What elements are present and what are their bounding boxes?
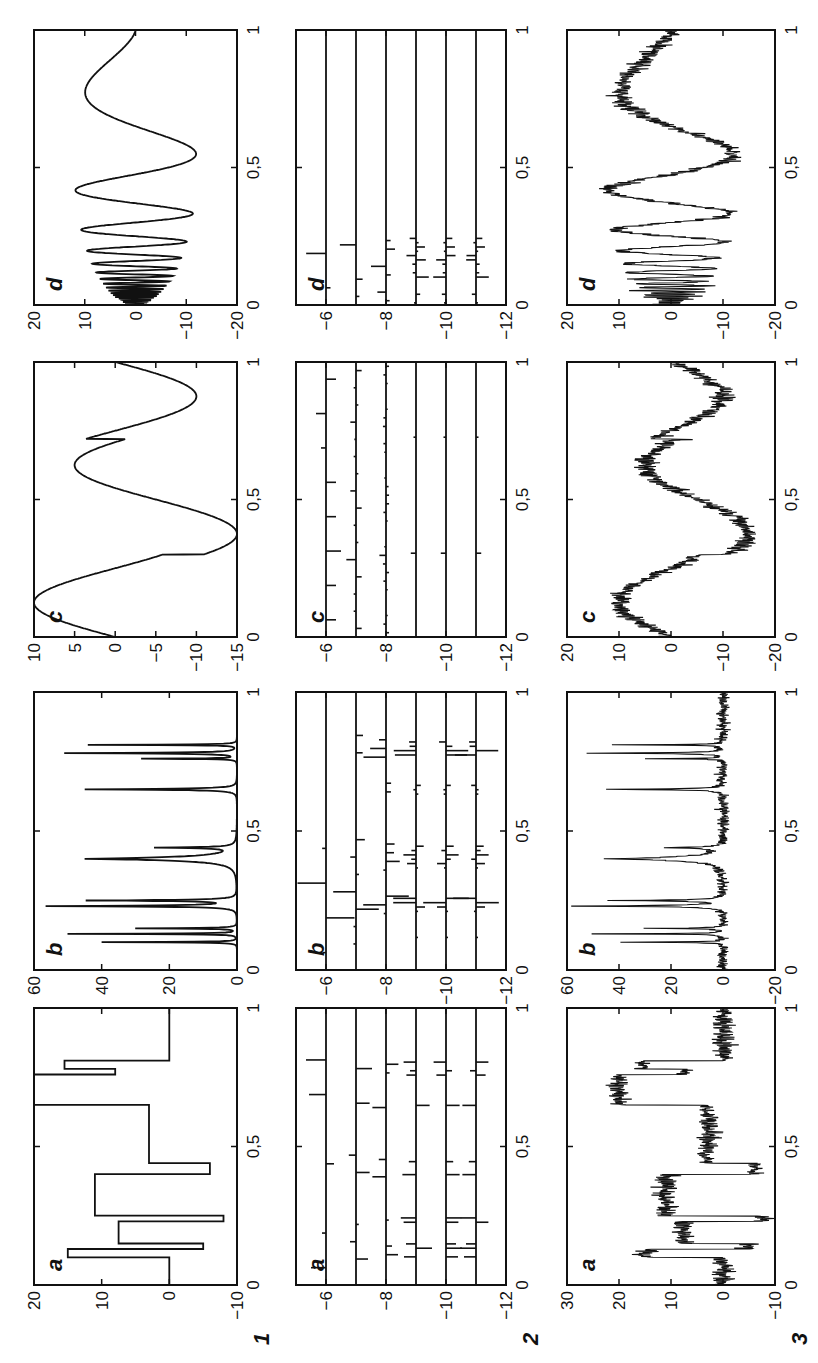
x-tick-label: 0 [244,300,263,309]
panel-letter: d [42,277,67,291]
x-tick-label: 0,5 [513,1135,532,1159]
y-tick-label: −12 [497,1291,516,1320]
y-tick-label: −10 [714,643,733,672]
x-tick-label: 1 [244,357,263,366]
y-tick-label: 0 [228,976,247,985]
figure: 00,5120100−10a00,516040200b00,511050−5−1… [0,0,818,1363]
y-tick-label: −12 [497,311,516,340]
figure-canvas: 00,5120100−10a00,516040200b00,511050−5−1… [0,0,818,1363]
y-tick-label: −10 [766,1291,785,1320]
x-tick-label: 0 [782,1280,801,1289]
x-tick-label: 0 [782,632,801,641]
signal-curve [610,362,756,637]
y-tick-label: −20 [766,976,785,1005]
x-tick-label: 0 [244,965,263,974]
x-tick-label: 0 [244,1280,263,1289]
x-tick-label: 1 [782,25,801,34]
y-tick-label: −20 [766,311,785,340]
x-tick-label: 0 [513,1280,532,1289]
plot-frame [567,30,775,305]
x-tick-label: 1 [244,687,263,696]
y-tick-label: −5 [147,643,166,662]
y-tick-label: −10 [437,311,456,340]
x-tick-label: 1 [244,25,263,34]
x-tick-label: 0,5 [513,156,532,180]
y-tick-label: 10 [610,311,629,330]
y-tick-label: 10 [610,643,629,662]
y-tick-label: 0 [106,643,125,652]
y-tick-label: 0 [662,643,681,652]
x-tick-label: 1 [244,1003,263,1012]
plot-frame [34,362,237,637]
signal-curve [34,1008,224,1285]
y-tick-label: −12 [497,976,516,1005]
y-tick-label: 20 [610,1291,629,1310]
y-tick-label: 10 [93,1291,112,1310]
plot-frame [296,692,506,970]
y-tick-label: −6 [317,976,336,995]
panel-3a: 00,513020100−10a [558,1003,801,1320]
plot-frame [34,30,237,305]
row-label: 2 [518,1332,543,1346]
signal-curve [571,692,731,970]
panel-letter: b [575,943,600,956]
y-tick-label: −20 [228,311,247,340]
signal-curve [46,692,237,970]
x-tick-label: 0,5 [513,488,532,512]
x-tick-label: 0 [513,965,532,974]
panel-2c: 00,51−6−8−10−12c [296,357,532,672]
x-tick-label: 0,5 [513,819,532,843]
y-tick-label: −10 [714,311,733,340]
y-tick-label: −8 [377,1291,396,1310]
y-tick-label: 40 [610,976,629,995]
x-tick-label: 1 [782,687,801,696]
panel-letter: c [575,611,600,623]
signal-curve [606,1008,775,1285]
y-tick-label: 60 [25,976,44,995]
y-tick-label: −10 [437,976,456,1005]
y-tick-label: −8 [377,643,396,662]
panel-3c: 00,5120100−10−20c [558,357,801,672]
panel-1b: 00,516040200b [25,687,263,995]
x-tick-label: 1 [513,357,532,366]
x-tick-label: 0,5 [244,156,263,180]
panel-1a: 00,5120100−10a [25,1003,263,1320]
panel-letter: a [575,1259,600,1271]
x-tick-label: 0 [244,632,263,641]
y-tick-label: 30 [558,1291,577,1310]
y-tick-label: −15 [228,643,247,672]
x-tick-label: 1 [513,25,532,34]
y-tick-label: −10 [437,1291,456,1320]
y-tick-label: −10 [228,1291,247,1320]
x-tick-label: 0,5 [782,488,801,512]
panel-letter: b [42,943,67,956]
panel-letter: d [575,277,600,291]
y-tick-label: 40 [93,976,112,995]
y-tick-label: 0 [160,1291,179,1300]
y-tick-label: 20 [25,311,44,330]
y-tick-label: 20 [25,1291,44,1310]
y-tick-label: 20 [160,976,179,995]
panel-3d: 00,5120100−10−20d [558,25,801,340]
y-tick-label: 10 [662,1291,681,1310]
y-tick-label: −6 [317,311,336,330]
signal-curve [599,30,741,305]
plot-frame [296,362,506,637]
y-tick-label: 0 [662,311,681,320]
row-label: 3 [787,1333,812,1345]
y-tick-label: −8 [377,311,396,330]
x-tick-label: 0,5 [244,819,263,843]
y-tick-label: −6 [317,1291,336,1310]
x-tick-label: 1 [782,357,801,366]
panel-2a: 00,51−6−8−10−12a [296,1003,532,1320]
x-tick-label: 0,5 [244,488,263,512]
panel-1d: 00,5120100−10−20d [25,25,263,340]
y-tick-label: −20 [766,643,785,672]
x-tick-label: 0 [782,300,801,309]
y-tick-label: −6 [317,643,336,662]
plot-frame [296,30,506,305]
y-tick-label: 10 [76,311,95,330]
y-tick-label: 10 [25,643,44,662]
y-tick-label: 0 [714,976,733,985]
x-tick-label: 0 [782,965,801,974]
